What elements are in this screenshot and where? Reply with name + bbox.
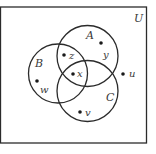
point-z-dot [62,53,66,57]
set-c-label: C [106,91,115,104]
point-y-dot [99,41,103,45]
universe-label: U [134,12,144,25]
venn-diagram: U A B C z x y w v u [0,0,156,154]
point-x-dot [71,72,75,76]
point-v-label: v [85,107,91,118]
point-w-dot [35,79,39,83]
point-y-label: y [102,49,109,60]
point-x-label: x [77,68,83,79]
point-z-label: z [68,50,75,61]
points-group: z x y w v u [35,41,135,118]
set-b-label: B [34,57,43,70]
point-u-label: u [129,68,135,79]
point-v-dot [78,110,82,114]
set-a-label: A [85,29,94,42]
point-w-label: w [40,84,49,95]
point-u-dot [121,72,125,76]
